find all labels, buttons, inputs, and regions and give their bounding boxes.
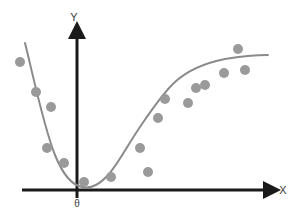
x-axis-label: X <box>279 184 287 196</box>
data-point <box>219 68 229 78</box>
y-axis-label: Y <box>70 11 78 23</box>
data-point <box>191 83 201 93</box>
data-point <box>31 87 41 97</box>
data-point <box>46 102 56 112</box>
data-point <box>233 44 243 54</box>
origin-label: θ <box>74 198 80 209</box>
data-point <box>106 172 116 182</box>
data-point <box>160 94 170 104</box>
data-point <box>15 57 25 67</box>
data-point <box>79 177 89 187</box>
plot-canvas: Y X θ <box>0 0 302 217</box>
data-point <box>42 143 52 153</box>
data-point <box>240 65 250 75</box>
data-point <box>200 80 210 90</box>
data-point <box>153 113 163 123</box>
scatter-plot-figure: Y X θ <box>0 0 302 217</box>
data-point <box>143 167 153 177</box>
data-point <box>135 143 145 153</box>
data-point <box>59 158 69 168</box>
plot-background <box>0 0 302 217</box>
data-point <box>183 98 193 108</box>
